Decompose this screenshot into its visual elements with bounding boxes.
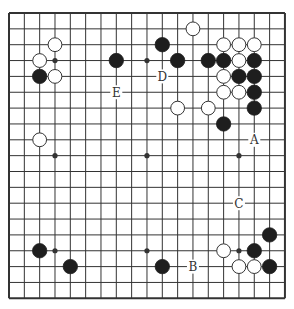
black-stone [262,228,276,242]
white-stone [217,70,231,84]
black-stone [247,244,261,258]
black-stone [247,85,261,99]
position-label-a: A [249,133,259,147]
black-stone [63,259,77,273]
white-stone [201,101,215,115]
black-stone [170,53,184,67]
star-point [236,248,241,253]
star-point [52,58,57,63]
white-stone [217,244,231,258]
position-label-c: C [234,197,243,211]
star-point [52,248,57,253]
star-point [144,153,149,158]
star-point [236,153,241,158]
go-board: DEACB [0,0,294,309]
white-stone [217,85,231,99]
white-stone [171,101,185,115]
star-point [144,58,149,63]
white-stone [186,22,200,36]
black-stone [155,259,169,273]
black-stone [232,69,246,83]
black-stone [216,53,230,67]
black-stone [247,101,261,115]
position-label-e: E [112,86,121,100]
black-stone [247,69,261,83]
white-stone [33,133,47,147]
black-stone [109,53,123,67]
white-stone [232,85,246,99]
white-stone [232,260,246,274]
black-stone [247,53,261,67]
position-label-b: B [189,260,198,274]
position-label-d: D [157,70,167,84]
star-point [144,248,149,253]
white-stone [247,38,261,52]
white-stone [48,38,62,52]
star-point [52,153,57,158]
white-stone [232,54,246,68]
black-stone [155,38,169,52]
white-stone [217,38,231,52]
black-stone [262,259,276,273]
black-stone [32,244,46,258]
white-stone [48,70,62,84]
black-stone [32,69,46,83]
white-stone [33,54,47,68]
black-stone [216,117,230,131]
white-stone [247,260,261,274]
black-stone [201,53,215,67]
white-stone [232,38,246,52]
stones [32,22,276,274]
